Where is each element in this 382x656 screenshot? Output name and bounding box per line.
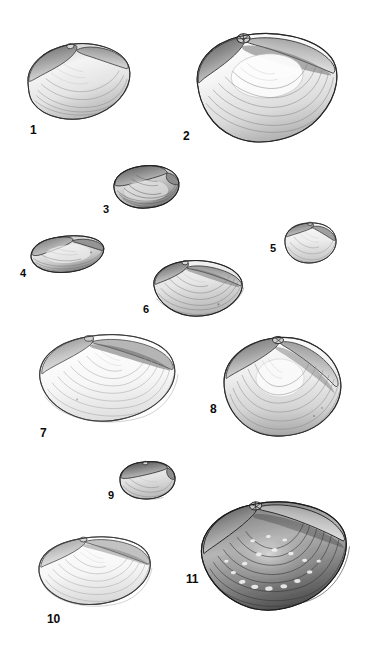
- specimen-figure-10: [32, 528, 156, 612]
- figure-label-6: 6: [143, 304, 149, 315]
- specimen-figure-7: [32, 324, 183, 430]
- specimen-figure-6: [149, 256, 247, 321]
- figure-label-1: 1: [30, 124, 36, 136]
- figure-label-4: 4: [20, 268, 26, 279]
- specimen-figure-8: [216, 330, 346, 442]
- specimen-figure-1: [18, 32, 138, 128]
- figure-label-7: 7: [40, 427, 46, 439]
- specimen-figure-4: [27, 229, 108, 278]
- figure-label-9: 9: [108, 490, 114, 501]
- figure-label-5: 5: [270, 243, 276, 254]
- figure-label-10: 10: [47, 613, 60, 625]
- specimen-figure-5: [281, 219, 339, 267]
- figure-label-8: 8: [210, 403, 216, 415]
- specimen-figure-3: [109, 161, 183, 213]
- specimen-plate: 1: [0, 0, 382, 656]
- figure-label-2: 2: [183, 130, 189, 142]
- specimen-figure-9: [115, 457, 178, 503]
- figure-label-3: 3: [103, 204, 109, 215]
- specimen-figure-11: [191, 488, 357, 621]
- specimen-figure-2: [186, 23, 346, 153]
- figure-label-11: 11: [186, 573, 198, 585]
